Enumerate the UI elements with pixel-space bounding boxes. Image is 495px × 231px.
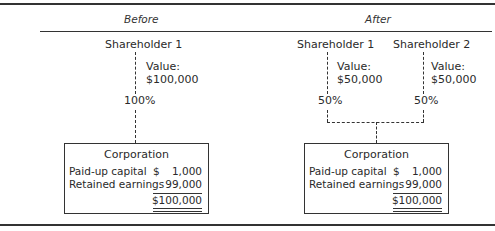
after-shareholder-2-name: Shareholder 2 [393,38,470,51]
row-amount: 1,000 [172,165,202,177]
row-currency: $ [153,165,160,177]
after-shareholder-1-value: $50,000 [337,73,383,86]
after-row-paid-up-capital: Paid-up capital $ 1,000 [309,165,442,179]
after-shareholder-2-ownership: 50% [414,94,438,107]
row-currency: $ [393,165,400,177]
row-amount: 99,000 [405,178,442,190]
after-total-double-underline [393,208,442,212]
before-row-paid-up-capital: Paid-up capital $ 1,000 [69,165,202,179]
before-shareholder-1-value-label: Value: [146,60,180,73]
after-shareholder-2-value: $50,000 [431,73,477,86]
after-row-total: $100,000 [309,194,442,208]
after-shareholder-1-ownership: 50% [318,94,342,107]
before-corporation-box: Corporation Paid-up capital $ 1,000 Reta… [64,143,209,214]
before-ownership-line-lower [135,110,136,143]
after-shareholder-1-line-lower [327,110,328,122]
after-shareholder-1-line-upper [327,52,328,94]
before-ownership-line-upper [135,52,136,94]
after-header: After [365,13,391,25]
after-shareholder-2-value-label: Value: [431,60,465,73]
after-corporation-box: Corporation Paid-up capital $ 1,000 Reta… [304,143,449,214]
row-label: Paid-up capital [309,165,387,177]
before-row-total: $100,000 [69,194,202,208]
total-amount: $100,000 [392,194,442,206]
bottom-rule [0,224,495,226]
after-shareholder-2-line-lower [423,110,424,122]
before-ownership-percent: 100% [124,94,155,107]
before-header: Before [124,13,159,25]
after-corporation-title: Corporation [305,148,448,161]
header-rule [40,31,492,32]
before-corporation-title: Corporation [65,148,208,161]
after-shareholder-1-name: Shareholder 1 [297,38,374,51]
after-shareholder-2-line-upper [423,52,424,94]
after-connector-line [376,122,377,143]
row-label: Retained earnings [69,178,164,190]
after-shareholder-1-value-label: Value: [337,60,371,73]
row-amount: 1,000 [412,165,442,177]
total-amount: $100,000 [152,194,202,206]
row-label: Paid-up capital [69,165,147,177]
before-shareholder-1-value: $100,000 [146,73,199,86]
after-row-retained-earnings: Retained earnings 99,000 [309,178,442,192]
row-label: Retained earnings [309,178,404,190]
before-total-double-underline [153,208,202,212]
top-rule [0,3,495,5]
before-shareholder-1-name: Shareholder 1 [105,38,182,51]
before-row-retained-earnings: Retained earnings 99,000 [69,178,202,192]
row-amount: 99,000 [165,178,202,190]
